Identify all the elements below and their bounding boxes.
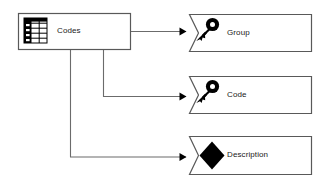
arrowhead-code-icon [180, 93, 187, 101]
diagram-vector-layer [0, 0, 323, 190]
arrowhead-description-icon [180, 153, 187, 161]
connector-codes-to-description[interactable] [71, 50, 187, 161]
diagram-canvas: Codes Group Code Description [0, 0, 323, 190]
connector-codes-to-code[interactable] [104, 50, 187, 100]
attribute-node-group-label: Group [227, 29, 250, 37]
attribute-node-description-label: Description [227, 151, 268, 159]
attribute-node-code[interactable] [190, 77, 312, 114]
attribute-node-group[interactable] [190, 15, 312, 52]
table-icon [24, 18, 47, 43]
arrowhead-group-icon [180, 28, 187, 36]
attribute-node-code-label: Code [227, 91, 247, 99]
connector-codes-to-group[interactable] [131, 28, 187, 36]
entity-node-codes-label: Codes [57, 27, 81, 35]
